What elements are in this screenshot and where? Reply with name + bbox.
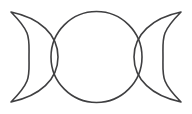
triple-moon-symbol-canvas: Triple Moon Symbol Triple Moon symbol: a… bbox=[0, 0, 192, 114]
triple-moon-svg: Triple Moon Symbol Triple Moon symbol: a… bbox=[0, 0, 192, 114]
